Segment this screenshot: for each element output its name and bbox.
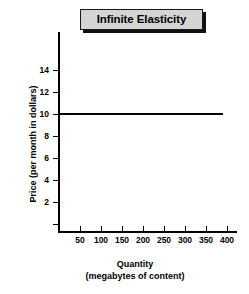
- y-axis-tick: [53, 136, 59, 137]
- x-axis-tick: [164, 226, 165, 232]
- x-axis-title-line1: Quantity: [40, 258, 230, 270]
- y-axis-title: Price (per month in dollars): [28, 59, 38, 229]
- y-axis-tick: [53, 224, 59, 225]
- demand-curve-line: [59, 113, 223, 115]
- y-axis-tick: [53, 158, 59, 159]
- y-axis-tick: [53, 180, 59, 181]
- x-axis-tick-label: 400: [214, 235, 240, 245]
- x-axis-tick: [122, 226, 123, 232]
- x-axis-tick: [227, 226, 228, 232]
- x-axis-title: Quantity (megabytes of content): [40, 258, 230, 282]
- x-axis-tick: [206, 226, 207, 232]
- y-axis-tick: [53, 202, 59, 203]
- chart-title: Infinite Elasticity: [80, 9, 203, 30]
- x-axis-tick: [80, 226, 81, 232]
- x-axis-tick: [143, 226, 144, 232]
- x-axis-tick: [185, 226, 186, 232]
- x-axis-tick: [101, 226, 102, 232]
- x-axis-line: [58, 231, 237, 233]
- y-axis-tick: [53, 70, 59, 71]
- title-plaque-shadow-bottom: [83, 30, 206, 33]
- x-axis-title-line2: (megabytes of content): [40, 270, 230, 282]
- y-axis-tick: [53, 92, 59, 93]
- chart-figure: Infinite Elasticity 14 12 10 8 6 4 2 50 …: [0, 0, 249, 294]
